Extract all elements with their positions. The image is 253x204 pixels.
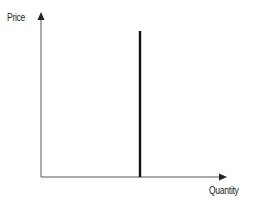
x-axis-arrow-icon — [219, 174, 227, 181]
diagram-canvas — [0, 0, 253, 204]
price-quantity-diagram: Price Quantity — [0, 0, 253, 204]
y-axis-label: Price — [7, 12, 25, 23]
x-axis-label: Quantity — [209, 185, 239, 196]
y-axis-arrow-icon — [38, 12, 45, 20]
